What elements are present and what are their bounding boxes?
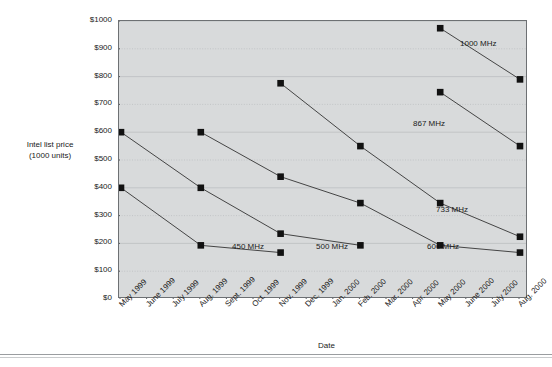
chart-figure: Intel list price (1000 units) $0$100$200… bbox=[0, 0, 552, 367]
data-point-marker bbox=[437, 89, 444, 96]
data-point-marker bbox=[517, 143, 524, 150]
footer-divider bbox=[0, 354, 552, 355]
series-label: 1000 MHz bbox=[460, 40, 496, 48]
series-line bbox=[121, 132, 360, 245]
y-axis-tick-label: $700 bbox=[94, 99, 112, 107]
data-point-marker bbox=[119, 185, 124, 192]
data-point-marker bbox=[357, 143, 364, 150]
data-point-marker bbox=[119, 129, 124, 136]
data-point-marker bbox=[517, 233, 524, 240]
data-point-marker bbox=[277, 249, 284, 256]
data-point-marker bbox=[277, 80, 284, 87]
data-point-marker bbox=[277, 230, 284, 237]
plot-area bbox=[118, 20, 527, 298]
y-axis-tick-label: $600 bbox=[94, 127, 112, 135]
data-point-marker bbox=[357, 242, 364, 249]
footer-divider-secondary bbox=[0, 357, 552, 358]
series-label: 450 MHz bbox=[232, 243, 264, 251]
data-point-marker bbox=[277, 173, 284, 180]
data-point-marker bbox=[517, 76, 524, 83]
y-axis-tick-label: $800 bbox=[94, 72, 112, 80]
series-lines bbox=[119, 21, 526, 297]
series-label: 733 MHz bbox=[436, 206, 468, 214]
y-axis-tick-label: $200 bbox=[94, 238, 112, 246]
data-point-marker bbox=[198, 129, 205, 136]
data-point-marker bbox=[357, 200, 364, 207]
y-axis-tick-label: $100 bbox=[94, 266, 112, 274]
y-axis-tick-label: $300 bbox=[94, 211, 112, 219]
data-point-marker bbox=[517, 249, 524, 256]
y-axis-tick-label: $900 bbox=[94, 44, 112, 52]
y-axis-tick-label: $500 bbox=[94, 155, 112, 163]
y-axis-tick-labels: $0$100$200$300$400$500$600$700$800$900$1… bbox=[60, 0, 112, 298]
data-point-marker bbox=[198, 185, 205, 192]
series-line bbox=[440, 28, 520, 79]
series-label: 500 MHz bbox=[316, 243, 348, 251]
data-point-marker bbox=[198, 242, 205, 249]
series-label: 867 MHz bbox=[413, 120, 445, 128]
x-axis-title: Date bbox=[318, 341, 335, 350]
series-line bbox=[281, 83, 520, 236]
y-axis-tick-label: $400 bbox=[94, 183, 112, 191]
series-line bbox=[440, 92, 520, 146]
data-point-marker bbox=[437, 25, 444, 32]
series-label: 600 MHz bbox=[427, 243, 459, 251]
series-line bbox=[201, 132, 520, 252]
y-axis-tick-label: $1000 bbox=[90, 16, 112, 24]
